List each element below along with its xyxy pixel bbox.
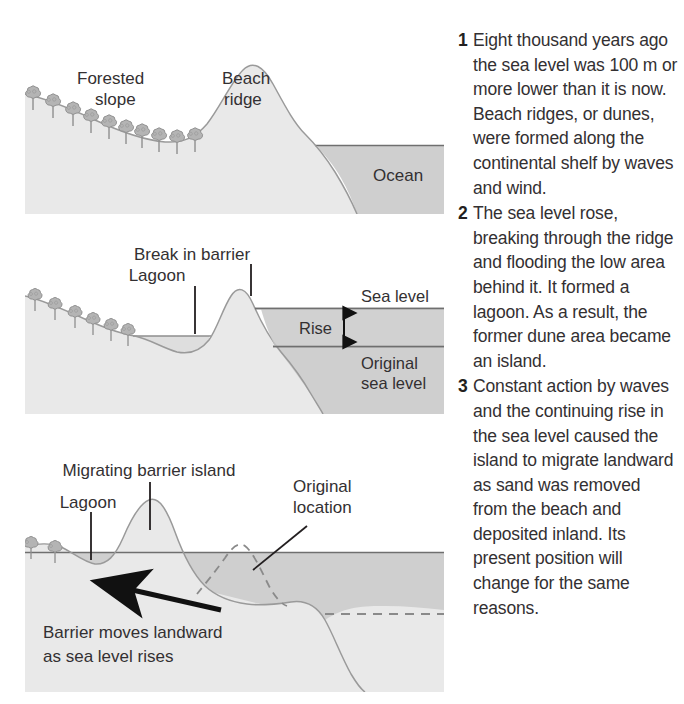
lagoon-label: Lagoon <box>129 266 186 285</box>
break-in-barrier-label: Break in barrier <box>134 245 251 264</box>
barrier-moves-line1: Barrier moves landward <box>43 623 223 642</box>
step-2: 2 The sea level rose, breaking through t… <box>458 201 678 373</box>
panel-2-illustration: Break in barrier Lagoon Sea level Rise O… <box>25 224 444 414</box>
forested-slope-line2: slope <box>95 90 136 109</box>
sea-level-label: Sea level <box>361 287 429 305</box>
original-sea-level-line2: sea level <box>361 374 426 392</box>
barrier-moves-line2: as sea level rises <box>43 647 173 666</box>
step-3-text: Constant action by waves and the continu… <box>473 374 678 620</box>
rise-label: Rise <box>299 319 332 337</box>
panel-stage-1: Forested slope Beach ridge Ocean <box>25 32 444 214</box>
barrier-island-diagram: Forested slope Beach ridge Ocean <box>0 0 684 704</box>
diagram-panels: Forested slope Beach ridge Ocean <box>25 30 444 692</box>
step-3: 3 Constant action by waves and the conti… <box>458 374 678 620</box>
step-1-text: Eight thousand years ago the sea level w… <box>473 28 678 200</box>
ocean-label: Ocean <box>373 166 423 185</box>
migrating-barrier-island-label: Migrating barrier island <box>63 461 236 480</box>
original-sea-level-line1: Original <box>361 354 418 372</box>
beach-ridge-line2: ridge <box>224 90 262 109</box>
steps-column: 1 Eight thousand years ago the sea level… <box>458 28 678 621</box>
rise-band <box>261 309 444 346</box>
step-1: 1 Eight thousand years ago the sea level… <box>458 28 678 200</box>
step-3-number: 3 <box>458 374 473 399</box>
panel-1-illustration: Forested slope Beach ridge Ocean <box>25 32 444 214</box>
original-location-line2: location <box>293 498 352 517</box>
original-location-line1: Original <box>293 477 352 496</box>
panel-3-illustration: Migrating barrier island Lagoon Original… <box>25 434 444 692</box>
step-2-number: 2 <box>458 201 473 226</box>
forested-slope-line1: Forested <box>77 69 144 88</box>
step-1-number: 1 <box>458 28 473 53</box>
lagoon-label: Lagoon <box>60 493 117 512</box>
beach-ridge-line1: Beach <box>222 69 270 88</box>
step-2-text: The sea level rose, breaking through the… <box>473 201 678 373</box>
panel-stage-2: Break in barrier Lagoon Sea level Rise O… <box>25 224 444 414</box>
panel-stage-3: Migrating barrier island Lagoon Original… <box>25 434 444 692</box>
